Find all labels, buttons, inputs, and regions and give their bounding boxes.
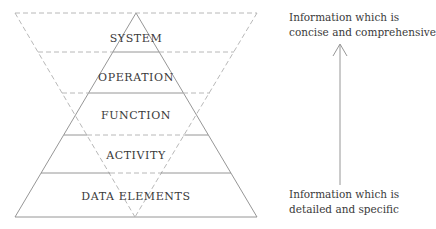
concise-information-note: Information which is concise and compreh… [289, 10, 436, 40]
level-label-operation: OPERATION [98, 71, 174, 84]
top-note-line-2: concise and comprehensive [289, 25, 436, 40]
detailed-information-note: Information which is detailed and specif… [289, 187, 399, 217]
level-label-system: SYSTEM [110, 32, 163, 45]
level-label-function: FUNCTION [101, 109, 171, 122]
bottom-note-line-2: detailed and specific [289, 202, 399, 217]
up-arrow-icon [333, 44, 347, 185]
bottom-note-line-1: Information which is [289, 187, 399, 202]
level-label-activity: ACTIVITY [105, 149, 166, 162]
top-note-line-1: Information which is [289, 10, 436, 25]
level-label-data-elements: DATA ELEMENTS [81, 190, 190, 203]
